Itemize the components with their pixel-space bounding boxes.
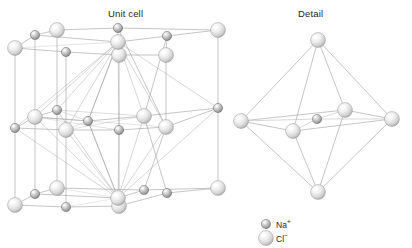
sphere-icon: [286, 124, 301, 139]
legend-label-sodium: Na+: [276, 220, 291, 230]
sphere-icon: [112, 48, 127, 63]
atom-na-b-mr: [162, 188, 171, 197]
sphere-icon: [61, 202, 70, 211]
atom-na-t-bc: [113, 23, 122, 32]
sphere-icon: [30, 189, 39, 198]
atom-na-t-fc: [61, 47, 70, 56]
sphere-highlight: [164, 190, 167, 192]
unit-cell-atom-group: [8, 23, 226, 214]
detail-atom-group: [234, 33, 400, 200]
bond: [57, 188, 144, 190]
bond: [66, 198, 118, 207]
nacl-crystal-structure-figure: Unit cell Detail Na+ Cl−: [0, 0, 412, 248]
sphere-icon: [59, 123, 74, 138]
sphere-icon: [385, 112, 400, 127]
sphere-highlight: [313, 188, 318, 192]
atom-cl-m-ml: [28, 110, 43, 125]
sphere-highlight: [54, 107, 57, 109]
bond: [241, 121, 293, 131]
sphere-highlight: [114, 51, 119, 55]
sphere-icon: [137, 109, 152, 124]
sphere-highlight: [387, 115, 392, 119]
sphere-highlight: [263, 221, 266, 223]
atom-na-m-bl: [52, 105, 61, 114]
atom-na-d-centre: [312, 114, 321, 123]
sphere-highlight: [10, 44, 15, 48]
atom-cl-t-br: [211, 23, 226, 38]
sphere-icon: [139, 185, 148, 194]
sphere-highlight: [141, 187, 144, 189]
bond: [241, 40, 318, 121]
sphere-icon: [50, 181, 65, 196]
atom-cl-d-back: [338, 103, 353, 118]
sphere-icon: [312, 114, 321, 123]
sphere-highlight: [61, 126, 66, 130]
sphere-highlight: [32, 191, 35, 193]
atom-na-m-mc: [83, 116, 92, 125]
bond: [144, 127, 166, 190]
atom-na-m-br: [213, 103, 222, 112]
sphere-icon: [111, 35, 126, 50]
sphere-highlight: [116, 127, 119, 129]
sphere-icon: [8, 198, 23, 213]
bond: [241, 110, 345, 121]
sphere-highlight: [85, 118, 88, 120]
sphere-highlight: [139, 112, 144, 116]
sphere-icon: [28, 110, 43, 125]
sphere-highlight: [32, 32, 35, 34]
sphere-icon: [61, 47, 70, 56]
bond: [66, 42, 118, 130]
sphere-icon: [8, 41, 23, 56]
bond: [241, 121, 318, 192]
sphere-icon: [113, 23, 122, 32]
bond: [293, 131, 318, 192]
atom-cl-b-br: [211, 181, 226, 196]
atom-cl-d-top: [311, 33, 326, 48]
sphere-icon: [111, 191, 126, 206]
bond: [66, 206, 119, 207]
atom-na-b-ml: [30, 189, 39, 198]
bond: [57, 28, 118, 30]
sphere-highlight: [213, 184, 218, 188]
sphere-icon: [234, 114, 249, 129]
atom-cl-t-fr: [112, 48, 127, 63]
sphere-highlight: [52, 26, 57, 30]
sphere-icon: [211, 181, 226, 196]
sphere-highlight: [63, 49, 66, 51]
sphere-icon: [159, 120, 174, 135]
lattice-canvas: [0, 0, 412, 248]
atom-na-legend-na: [261, 219, 270, 228]
sphere-highlight: [52, 184, 57, 188]
sphere-icon: [259, 231, 274, 246]
bond: [15, 42, 118, 48]
sphere-icon: [83, 116, 92, 125]
sphere-highlight: [161, 123, 166, 127]
sphere-icon: [114, 125, 123, 134]
sphere-highlight: [10, 201, 15, 205]
atom-cl-t-bl: [50, 23, 65, 38]
sphere-icon: [211, 23, 226, 38]
atom-cl-d-left: [234, 114, 249, 129]
sphere-icon: [30, 30, 39, 39]
atom-cl-b-bl: [50, 181, 65, 196]
atom-cl-b-mc: [111, 191, 126, 206]
atom-na-b-fc: [61, 202, 70, 211]
atom-cl-t-mc: [111, 35, 126, 50]
bond: [66, 130, 118, 198]
atom-cl-m-fc: [59, 123, 74, 138]
atom-na-t-ml: [30, 30, 39, 39]
sphere-highlight: [113, 194, 118, 198]
legend-symbol-sodium: Na: [276, 220, 287, 230]
atom-cl-t-fl: [8, 41, 23, 56]
sphere-highlight: [161, 51, 166, 55]
atom-na-b-bc: [139, 185, 148, 194]
bond: [35, 117, 118, 198]
sphere-icon: [162, 31, 171, 40]
bond: [88, 116, 144, 121]
legend-charge-sodium: +: [287, 218, 291, 225]
sphere-icon: [52, 105, 61, 114]
sphere-highlight: [313, 36, 318, 40]
bond: [318, 40, 392, 119]
bond: [167, 30, 218, 36]
sphere-icon: [162, 188, 171, 197]
